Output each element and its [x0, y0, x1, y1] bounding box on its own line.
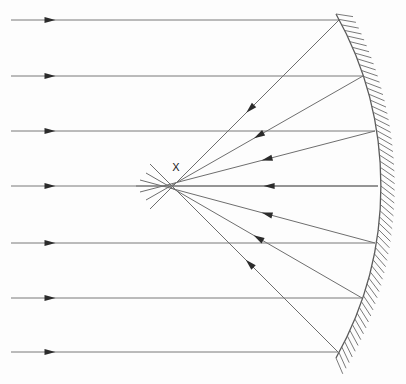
incoming-ray-arrow-ray-2: [45, 73, 56, 79]
mirror-hatch-stroke: [380, 167, 394, 177]
incoming-ray-arrow-ray-4: [45, 183, 56, 189]
mirror-hatch-stroke: [363, 296, 373, 310]
incoming-ray-arrow-ray-1: [45, 17, 56, 23]
mirror-hatch-stroke: [369, 278, 379, 292]
focus-label: X: [172, 161, 180, 173]
mirror-hatch-stroke: [381, 198, 394, 209]
mirror-hatch-stroke: [381, 174, 395, 184]
mirror-hatch-stroke: [355, 53, 372, 58]
mirror-hatch-stroke: [381, 192, 394, 203]
mirror-hatch-stroke: [367, 88, 383, 94]
mirror-hatch-stroke: [381, 186, 395, 197]
ray-diagram-figure: X: [0, 0, 406, 384]
mirror-hatch-stroke: [336, 14, 353, 17]
mirror-hatch-stroke: [347, 36, 364, 40]
mirror-hatch-stroke: [380, 205, 393, 216]
mirror-hatch-stroke: [377, 235, 389, 247]
incoming-ray-arrow-ray-5: [45, 240, 56, 246]
concave-mirror-group: [336, 14, 395, 374]
mirror-hatching: [336, 14, 395, 374]
mirror-hatch-stroke: [336, 358, 343, 374]
mirror-hatch-stroke: [339, 19, 356, 22]
reflected-ray-arrow-refl-6: [254, 235, 265, 243]
incoming-ray-arrow-ray-7: [45, 349, 56, 355]
reflected-ray-arrow-refl-4: [264, 183, 275, 189]
mirror-hatch-stroke: [339, 353, 346, 369]
mirror-hatch-stroke: [350, 42, 367, 46]
mirror-hatch-stroke: [370, 100, 386, 107]
reflected-rays-group: [136, 20, 378, 352]
reflected-ray-refl-1: [150, 20, 339, 209]
mirror-hatch-stroke: [380, 211, 393, 222]
incoming-ray-arrow-ray-6: [45, 295, 56, 301]
mirror-hatch-stroke: [361, 302, 370, 316]
optics-diagram-canvas: X: [0, 0, 406, 384]
mirror-hatch-stroke: [342, 25, 359, 28]
mirror-hatch-stroke: [379, 223, 391, 235]
mirror-hatch-stroke: [378, 229, 390, 241]
mirror-hatch-stroke: [357, 59, 373, 64]
mirror-hatch-stroke: [365, 290, 375, 304]
mirror-hatch-stroke: [367, 284, 377, 298]
mirror-hatch-stroke: [345, 30, 362, 34]
mirror-hatch-stroke: [373, 260, 384, 273]
incoming-ray-arrow-ray-3: [45, 128, 56, 134]
mirror-hatch-stroke: [352, 47, 369, 51]
mirror-hatch-stroke: [369, 94, 385, 101]
reflected-ray-arrow-refl-3: [262, 155, 273, 161]
mirror-hatch-stroke: [372, 266, 383, 279]
reflected-ray-refl-7: [150, 164, 338, 352]
reflected-ray-arrow-refl-5: [262, 212, 273, 218]
mirror-hatch-stroke: [376, 242, 388, 255]
mirror-hatch-stroke: [374, 254, 385, 267]
mirror-hatch-stroke: [381, 180, 395, 190]
mirror-hatch-stroke: [370, 272, 381, 286]
mirror-hatch-stroke: [380, 217, 393, 229]
mirror-hatch-stroke: [375, 248, 387, 261]
mirror-hatch-stroke: [359, 65, 375, 70]
